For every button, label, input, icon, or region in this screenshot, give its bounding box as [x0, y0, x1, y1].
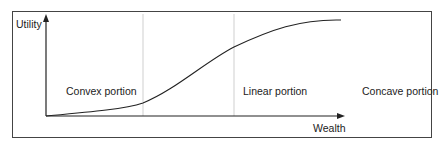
region-label-convex: Convex portion [66, 86, 137, 97]
region-label-linear: Linear portion [243, 86, 307, 97]
utility-curve-plot [0, 0, 443, 145]
y-axis-label: Utility [16, 19, 42, 30]
y-axis-arrow-icon [43, 14, 49, 22]
x-axis-label: Wealth [313, 123, 346, 134]
region-label-concave: Concave portion [362, 86, 438, 97]
utility-curve [46, 20, 341, 116]
x-axis-arrow-icon [337, 113, 345, 119]
